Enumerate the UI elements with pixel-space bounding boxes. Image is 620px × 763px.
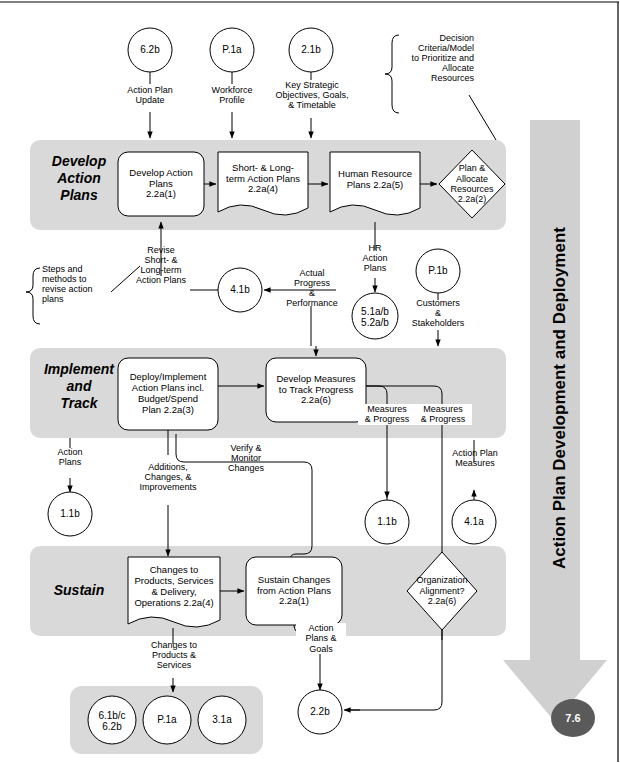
input-label-6-2b: 6.2b [128,40,172,60]
end-node-label: 7.6 [551,700,595,736]
connector-label-2-2b: 2.2b [298,702,342,722]
connector-label-1-1b-left: 1.1b [48,504,92,524]
diagram-canvas: Action Plan Development and Deployment 7… [0,0,620,763]
edge-label-action-plans-goals: Action Plans & Goals [296,623,346,654]
edge-label-verify-monitor-changes: Verify & Monitor Changes [215,443,277,473]
annotation-steps-methods: Steps and methods to revise action plans [42,264,114,304]
edge-label-actual-progress-performance: Actual Progress & Performance [277,268,347,308]
edge-label-revise-short-long-action-plans: Revise Short- & Long-term Action Plans [125,245,197,285]
node-sustain-changes [246,557,342,625]
node-develop-action-plans [118,152,204,216]
edge-label-measures-progress-b: Measures & Progress [414,404,472,425]
output-label-p-1a: P.1a [145,710,189,730]
edge-label-action-plans: Action Plans [40,447,100,467]
input-label-p-1a: P.1a [210,40,254,60]
edge-label-additions-changes-improvements: Additions, Changes, & Improvements [122,462,214,492]
edge-label-hr-action-plans: HR Action Plans [348,243,402,273]
edge-label-measures-progress-a: Measures & Progress [358,404,416,425]
edge-alignment-to-22b [346,630,442,710]
output-label-6-1bc-6-2b: 6.1b/c 6.2b [90,708,134,734]
edge-label-action-plan-measures: Action Plan Measures [443,448,507,468]
connector-label-4-1a: 4.1a [452,512,496,532]
connector-label-1-1b-mid: 1.1b [365,512,409,532]
vertical-title: Action Plan Development and Deployment [505,118,615,678]
node-human-resource-plans [330,152,420,215]
bracket-steps-methods [26,268,40,324]
node-changes-to-products [128,557,220,627]
annotation-decision-criteria: Decision Criteria/Model to Prioritize an… [398,33,474,83]
bracket-decision-criteria [385,35,399,113]
output-label-3-1a: 3.1a [200,710,244,730]
band-label-sustain: Sustain [34,582,124,599]
leader-decision-criteria [469,95,496,140]
connector-label-p-1b: P.1b [416,261,460,281]
input-label-2-1b: 2.1b [289,40,333,60]
edge-label-key-strategic-objectives: Key Strategic Objectives, Goals, & Timet… [254,80,370,110]
edge-label-changes-to-products-services: Changes to Products & Services [139,640,209,670]
band-label-implement-and-track: Implement and Track [32,361,126,411]
node-deploy-implement [118,358,218,430]
band-label-develop-action-plans: Develop Action Plans [34,153,124,203]
node-develop-measures [266,358,366,422]
edge-label-action-plan-update: Action Plan Update [105,85,195,105]
node-short-long-action-plans [218,152,308,215]
edge-label-customers-stakeholders: Customers & Stakeholders [398,298,478,328]
vertical-title-text: Action Plan Development and Deployment [550,227,570,569]
connector-label-4-1b: 4.1b [218,280,262,300]
connector-label-5-1ab-5-2ab: 5.1a/b 5.2a/b [353,304,397,330]
